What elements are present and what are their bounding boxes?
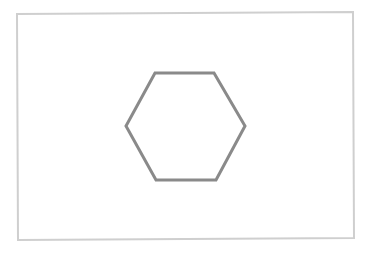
frame-border [17,12,354,240]
diagram-svg [0,0,370,253]
hexagon-shape [126,73,245,180]
diagram-canvas [0,0,370,253]
